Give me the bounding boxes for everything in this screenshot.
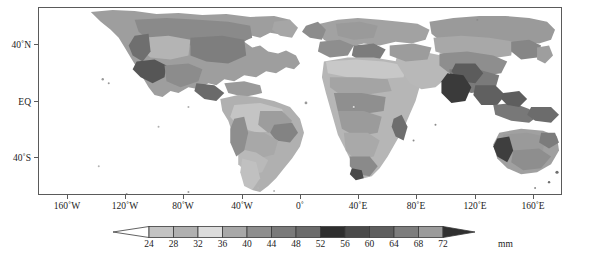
cbar-label-72: 72: [438, 239, 448, 250]
xtick-label-160e: 160˚E: [521, 201, 544, 211]
island-speck: [434, 124, 436, 126]
island-speck: [257, 187, 259, 189]
colorbar-bin-60-64: [370, 227, 395, 238]
island-speck: [548, 181, 550, 183]
tick-x-120e: [475, 195, 476, 199]
colorbar-bin-40-44: [247, 227, 272, 238]
colorbar-unit-label: mm: [498, 239, 513, 250]
world-map-raster: [39, 8, 561, 194]
cbar-label-32: 32: [193, 239, 203, 250]
cbar-label-28: 28: [169, 239, 179, 250]
cbar-label-44: 44: [267, 239, 277, 250]
colorbar-bins: [149, 227, 443, 238]
tick-x-40w: [242, 195, 243, 199]
figure-root: 160˚W 120˚W 80˚W 40˚W 0˚ 40˚E 80˚E 120˚E…: [0, 0, 590, 258]
cbar-label-64: 64: [389, 239, 399, 250]
island-speck: [555, 171, 558, 174]
colorbar-bin-64-68: [394, 227, 419, 238]
island-speck: [187, 106, 189, 108]
colorbar-bin-52-56: [321, 227, 346, 238]
map-plot-area: [38, 7, 562, 195]
colorbar-bin-56-60: [345, 227, 370, 238]
colorbar-bin-24-28: [149, 227, 174, 238]
xtick-label-120e: 120˚E: [463, 201, 486, 211]
cbar-label-24: 24: [144, 239, 154, 250]
colorbar-bin-48-52: [296, 227, 321, 238]
island-speck: [476, 19, 478, 21]
cbar-label-52: 52: [316, 239, 326, 250]
tick-x-0: [300, 195, 301, 199]
island-speck: [187, 191, 189, 193]
tick-x-80w: [183, 195, 184, 199]
tick-x-40e: [358, 195, 359, 199]
colorbar-bin-44-48: [272, 227, 297, 238]
sahel: [330, 77, 392, 95]
cbar-label-48: 48: [291, 239, 301, 250]
xtick-label-0: 0˚: [296, 201, 304, 211]
colorbar-extend-right: [443, 227, 475, 238]
colorbar-extend-left: [113, 227, 149, 238]
colorbar-swatches: [113, 226, 475, 238]
cbar-label-36: 36: [218, 239, 228, 250]
cbar-label-40: 40: [242, 239, 252, 250]
island-speck: [413, 140, 415, 142]
colorbar-tick-labels: 24 28 32 36 40 44 48 52 56 60 64 68 72: [113, 239, 475, 251]
tick-y-40n: [34, 44, 38, 45]
tick-y-eq: [34, 101, 38, 102]
island-speck: [102, 78, 104, 80]
island-speck: [273, 190, 275, 192]
island-speck: [534, 187, 536, 189]
xtick-label-40e: 40˚E: [349, 201, 367, 211]
ytick-label-40s: 40˚S: [0, 153, 31, 163]
colorbar: [113, 226, 475, 238]
xtick-label-160w: 160˚W: [54, 201, 80, 211]
ytick-label-40n: 40˚N: [0, 40, 31, 50]
tick-x-160e: [533, 195, 534, 199]
island-speck: [158, 126, 160, 128]
xtick-label-80w: 80˚W: [172, 201, 194, 211]
colorbar-bin-36-40: [223, 227, 248, 238]
xtick-label-40w: 40˚W: [231, 201, 253, 211]
colorbar-bin-68-72: [419, 227, 444, 238]
xtick-label-80e: 80˚E: [407, 201, 425, 211]
tick-x-120w: [125, 195, 126, 199]
cbar-label-60: 60: [365, 239, 375, 250]
island-speck: [108, 82, 110, 84]
cbar-label-68: 68: [414, 239, 424, 250]
cbar-label-56: 56: [340, 239, 350, 250]
island-speck: [305, 102, 308, 105]
lake-victoria: [353, 106, 355, 108]
colorbar-bin-32-36: [198, 227, 223, 238]
island-speck: [98, 165, 100, 167]
ytick-label-eq: EQ: [0, 97, 31, 107]
tick-y-40s: [34, 157, 38, 158]
tick-x-160w: [67, 195, 68, 199]
xtick-label-120w: 120˚W: [112, 201, 138, 211]
tick-x-80e: [416, 195, 417, 199]
colorbar-bin-28-32: [174, 227, 199, 238]
